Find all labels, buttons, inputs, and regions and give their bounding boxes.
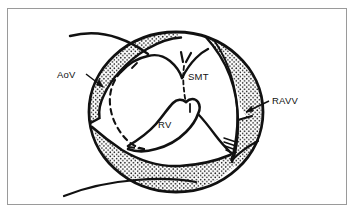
anatomical-diagram: AoV SMT RV RAVV — [0, 0, 355, 213]
label-ravv: RAVV — [272, 95, 298, 106]
label-aov: AoV — [57, 69, 76, 80]
label-rv: RV — [158, 119, 172, 130]
figure-root: AoV SMT RV RAVV — [0, 0, 355, 213]
label-smt: SMT — [188, 71, 209, 82]
